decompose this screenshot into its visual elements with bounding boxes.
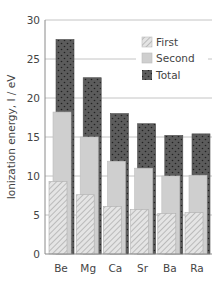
y-tick-label: 10 [27,170,40,182]
y-tick-label: 15 [27,131,40,143]
bar-group-mg [76,78,101,254]
legend-item-first: First [142,36,178,48]
y-tick-label: 5 [33,209,40,221]
y-tick-label: 0 [33,248,40,260]
bar-group-be [49,40,74,255]
bar-group-ba [158,135,183,254]
legend-swatch-total [142,70,152,80]
bar-group-ca [103,114,128,254]
legend-label-first: First [156,36,178,48]
bar-first-be [49,181,67,254]
legend-swatch-second [142,53,152,63]
y-axis-label: Ionization energy, I / eV [5,74,17,200]
bar-first-ra [185,213,203,254]
legend-label-second: Second [156,52,195,64]
legend: First Second Total [136,32,208,84]
bar-first-mg [76,195,94,254]
legend-item-second: Second [142,52,195,64]
x-category-label: Ba [163,262,177,274]
x-category-label: Ca [109,262,123,274]
x-category-label: Sr [137,262,149,274]
x-axis-categories: BeMgCaSrBaRa [54,262,204,274]
y-tick-label: 20 [27,92,40,104]
bar-first-sr [131,210,149,254]
bar-group-ra [185,134,210,254]
bar-first-ba [158,213,176,254]
y-axis-ticks: 051015202530 [27,14,40,260]
x-category-label: Mg [80,262,96,274]
x-category-label: Be [54,262,68,274]
bar-first-ca [103,206,121,254]
legend-label-total: Total [155,69,181,81]
y-tick-label: 25 [27,53,40,65]
y-tick-label: 30 [27,14,40,26]
x-category-label: Ra [190,262,204,274]
ionization-energy-chart: 051015202530 BeMgCaSrBaRa Ionization ene… [0,0,221,284]
legend-item-total: Total [142,69,181,81]
bar-group-sr [131,124,156,254]
legend-swatch-first [142,37,152,47]
